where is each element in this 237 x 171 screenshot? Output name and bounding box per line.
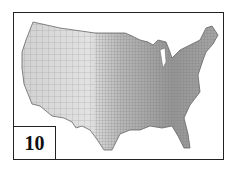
panel-label: 10 <box>25 132 45 155</box>
panel-label-box: 10 <box>13 126 56 160</box>
